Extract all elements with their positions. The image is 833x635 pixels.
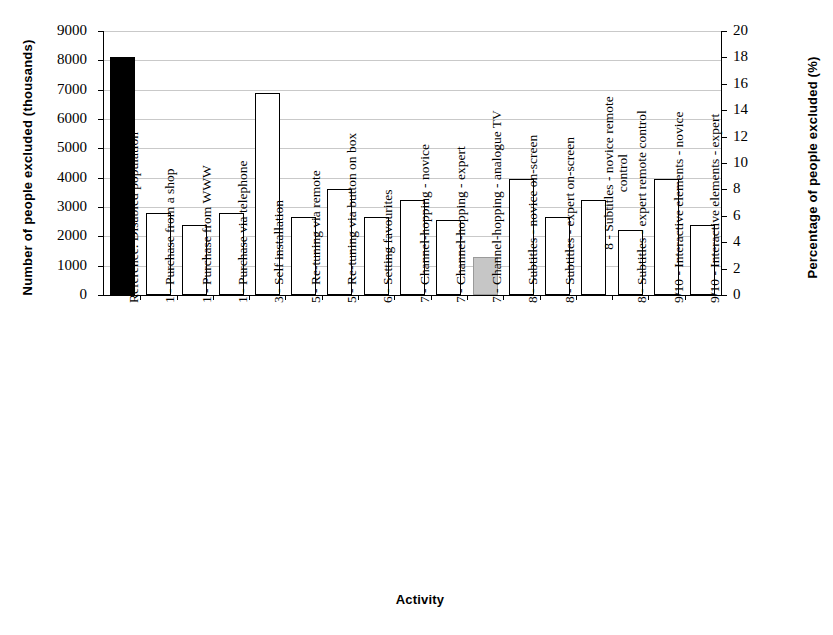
y-axis-title-right: Percentage of people excluded (%) [805,28,820,308]
left-tick [98,90,104,91]
right-tick-label: 18 [733,49,775,64]
category-label: 7 - Channel-hopping - novice [418,43,432,303]
right-tick-label: 16 [733,76,775,91]
left-tick-label: 4000 [27,170,87,185]
right-tick-label: 14 [733,102,775,117]
left-tick [98,266,104,267]
left-tick-label: 5000 [27,140,87,155]
category-label: 3 - Self installation [272,43,286,303]
category-label: 1 - Purchase via telephone [236,43,250,303]
left-tick-label: 7000 [27,82,87,97]
left-tick-label: 8000 [27,52,87,67]
right-tick-label: 8 [733,181,775,196]
right-tick-label: 6 [733,208,775,223]
left-tick-label: 9000 [27,23,87,38]
left-tick-label: 2000 [27,228,87,243]
right-tick-label: 4 [733,234,775,249]
bar-chart: Number of people excluded (thousands) Pe… [0,0,833,635]
right-tick-label: 20 [733,23,775,38]
right-tick-label: 2 [733,261,775,276]
left-tick-label: 6000 [27,111,87,126]
right-tick-label: 10 [733,155,775,170]
category-label: 7 - Channel-hopping - expert [454,43,468,303]
category-label: 1 - Purchase from a shop [163,43,177,303]
right-tick-label: 0 [733,287,775,302]
x-axis-title: Activity [300,592,540,607]
left-tick-label: 1000 [27,258,87,273]
category-label: 8 - Subtitles - novice on-screen [526,43,540,303]
left-tick-label: 0 [27,287,87,302]
left-axis-line [103,31,104,296]
category-label: Reference: Disabled population [127,43,141,303]
right-tick [721,31,727,32]
left-tick [98,295,104,296]
right-tick-label: 12 [733,129,775,144]
category-label: 1 - Purchase from WWW [200,43,214,303]
category-label: 5 - Re-tuning via button on box [345,43,359,303]
left-tick [98,207,104,208]
left-tick [98,119,104,120]
left-tick-label: 3000 [27,199,87,214]
category-label: 9/10 - Interactive elements - expert [708,43,722,303]
category-label: 7 - Channel-hopping - analogue TV [490,43,504,303]
left-tick [98,178,104,179]
left-tick [98,236,104,237]
left-tick [98,148,104,149]
category-label: 8 - Subtitles - novice remote control [602,43,630,303]
category-label: 6 - Setting favourites [381,43,395,303]
category-label: 5 - Re-tuning via remote [309,43,323,303]
category-label: 8 - Subtitles - expert remote control [635,43,649,303]
left-tick [98,31,104,32]
category-label: 8 - Subtitles - expert on-screen [563,43,577,303]
left-tick [98,60,104,61]
gridline [104,31,721,32]
category-label: 9/10 - Interactive elements - novice [672,43,686,303]
